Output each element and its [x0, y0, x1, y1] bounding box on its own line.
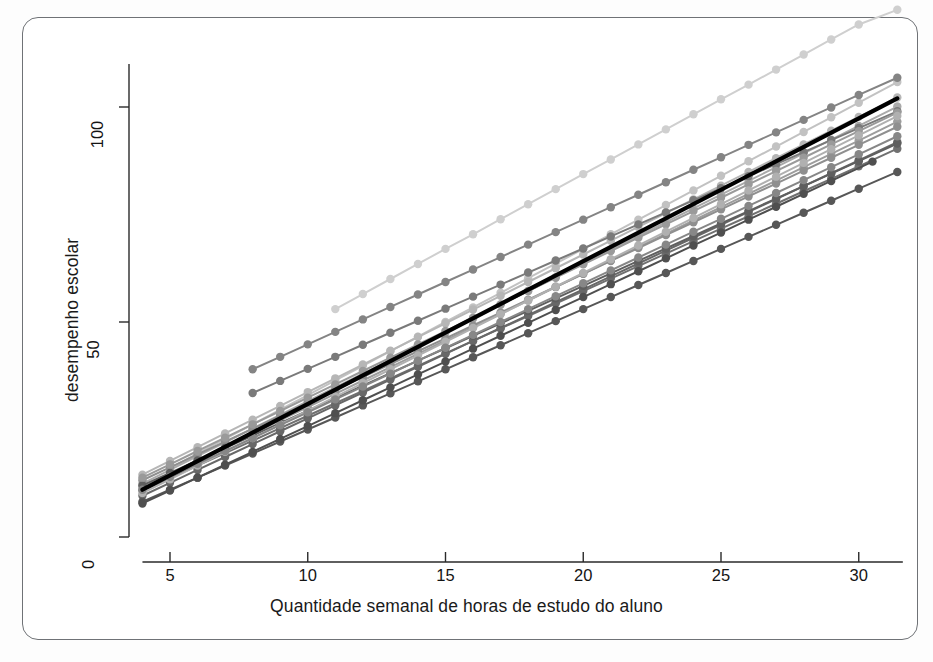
data-point-marker — [689, 166, 697, 174]
data-point-marker — [827, 113, 835, 121]
series-line — [138, 123, 901, 485]
data-point-marker — [799, 159, 807, 167]
data-point-marker — [893, 6, 901, 14]
axes-layer — [119, 64, 903, 562]
data-point-marker — [524, 305, 532, 313]
data-point-marker — [827, 154, 835, 162]
data-point-marker — [579, 170, 587, 178]
data-point-marker — [524, 240, 532, 248]
data-point-marker — [276, 353, 284, 361]
data-point-marker — [827, 35, 835, 43]
data-point-marker — [552, 292, 560, 300]
data-point-marker — [469, 344, 477, 352]
data-point-marker — [607, 232, 615, 240]
data-point-marker — [441, 357, 449, 365]
data-point-marker — [386, 275, 394, 283]
series-line — [138, 138, 901, 500]
data-point-marker — [799, 190, 807, 198]
data-point-marker — [359, 290, 367, 298]
data-point-marker — [441, 245, 449, 253]
data-point-marker — [855, 131, 863, 139]
data-point-marker — [744, 215, 752, 223]
data-point-marker — [441, 304, 449, 312]
data-point-marker — [744, 157, 752, 165]
data-point-marker — [248, 448, 256, 456]
data-point-marker — [441, 278, 449, 286]
data-point-marker — [893, 132, 901, 140]
x-tick-label: 10 — [296, 566, 320, 585]
data-point-marker — [166, 460, 174, 468]
data-point-marker — [414, 370, 422, 378]
data-point-marker — [772, 189, 780, 197]
data-point-marker — [893, 139, 901, 147]
data-point-marker — [717, 172, 725, 180]
series-layer — [138, 6, 901, 508]
data-point-marker — [441, 319, 449, 327]
data-point-marker — [717, 245, 725, 253]
data-point-marker — [689, 257, 697, 265]
data-point-marker — [662, 254, 670, 262]
data-point-marker — [827, 145, 835, 153]
data-point-marker — [138, 499, 146, 507]
data-point-marker — [552, 306, 560, 314]
data-point-marker — [717, 228, 725, 236]
data-point-marker — [772, 142, 780, 150]
data-point-marker — [717, 215, 725, 223]
x-tick-label: 30 — [847, 566, 871, 585]
data-point-marker — [524, 319, 532, 327]
data-point-marker — [772, 203, 780, 211]
data-point-marker — [552, 185, 560, 193]
data-point-marker — [772, 128, 780, 136]
data-point-marker — [579, 269, 587, 277]
data-point-marker — [607, 255, 615, 263]
data-point-marker — [248, 389, 256, 397]
data-point-marker — [304, 408, 312, 416]
line-path — [142, 98, 897, 489]
data-point-marker — [138, 473, 146, 481]
data-point-marker — [276, 377, 284, 385]
data-point-marker — [717, 95, 725, 103]
data-point-marker — [496, 310, 504, 318]
y-tick-label: 0 — [79, 560, 98, 569]
data-point-marker — [868, 157, 876, 165]
data-point-marker — [331, 395, 339, 403]
data-point-marker — [386, 383, 394, 391]
data-point-marker — [634, 267, 642, 275]
data-point-marker — [662, 201, 670, 209]
data-point-marker — [717, 153, 725, 161]
data-point-marker — [469, 331, 477, 339]
data-point-marker — [496, 318, 504, 326]
data-point-marker — [524, 329, 532, 337]
data-point-marker — [524, 296, 532, 304]
series-line — [138, 132, 901, 494]
data-point-marker — [469, 292, 477, 300]
data-point-marker — [496, 215, 504, 223]
data-point-marker — [893, 123, 901, 131]
data-point-marker — [552, 264, 560, 272]
data-point-marker — [662, 240, 670, 248]
data-point-marker — [634, 220, 642, 228]
data-point-marker — [331, 353, 339, 361]
data-point-marker — [827, 197, 835, 205]
data-point-marker — [496, 292, 504, 300]
data-point-marker — [221, 461, 229, 469]
data-point-marker — [634, 241, 642, 249]
data-point-marker — [893, 74, 901, 82]
data-point-marker — [607, 266, 615, 274]
data-point-marker — [744, 80, 752, 88]
data-point-marker — [799, 50, 807, 58]
data-point-marker — [662, 269, 670, 277]
data-point-marker — [166, 486, 174, 494]
data-point-marker — [331, 305, 339, 313]
data-point-marker — [276, 421, 284, 429]
data-point-marker — [607, 293, 615, 301]
data-point-marker — [634, 253, 642, 261]
data-point-marker — [386, 329, 394, 337]
data-point-marker — [689, 241, 697, 249]
data-point-marker — [893, 112, 901, 120]
data-point-marker — [662, 178, 670, 186]
x-tick-label: 5 — [158, 566, 182, 585]
data-point-marker — [662, 228, 670, 236]
data-point-marker — [689, 214, 697, 222]
data-point-marker — [799, 209, 807, 217]
